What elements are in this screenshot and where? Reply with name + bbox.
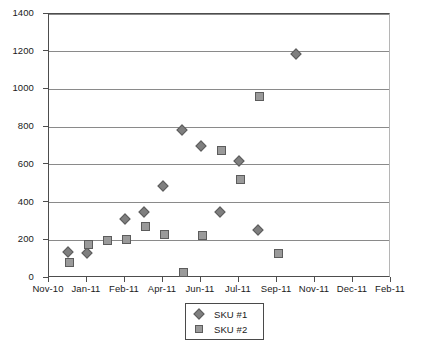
gridline <box>49 89 389 90</box>
y-tick-label: 200 <box>0 234 34 243</box>
y-tick-label: 600 <box>0 159 34 168</box>
data-point-series-2 <box>217 146 226 155</box>
gridline <box>49 14 389 15</box>
plot-area <box>48 13 390 277</box>
data-point-series-2 <box>236 175 245 184</box>
gridline <box>49 51 389 52</box>
data-point-series-2 <box>141 222 150 231</box>
y-tick-label: 1400 <box>0 8 34 17</box>
data-point-series-1 <box>158 180 169 191</box>
x-tick-mark <box>200 277 201 282</box>
x-tick-mark <box>124 277 125 282</box>
x-tick-mark <box>238 277 239 282</box>
x-tick-mark <box>314 277 315 282</box>
data-point-series-2 <box>198 231 207 240</box>
x-tick-mark <box>390 277 391 282</box>
y-tick-label: 1000 <box>0 83 34 92</box>
x-tick-mark <box>276 277 277 282</box>
x-tick-mark <box>86 277 87 282</box>
data-point-series-2 <box>160 230 169 239</box>
data-point-series-2 <box>179 268 188 277</box>
data-point-series-1 <box>291 48 302 59</box>
scatter-chart: 0200400600800100012001400 Nov-10Jan-11Fe… <box>0 0 428 350</box>
x-tick-mark <box>48 277 49 282</box>
chart-legend: SKU #1 SKU #2 <box>185 303 264 340</box>
data-point-series-2 <box>84 240 93 249</box>
data-point-series-1 <box>120 213 131 224</box>
x-tick-label: Feb-11 <box>360 284 420 294</box>
legend-item-sku-1: SKU #1 <box>193 307 247 321</box>
data-point-series-2 <box>103 236 112 245</box>
x-tick-mark <box>162 277 163 282</box>
data-point-series-2 <box>255 92 264 101</box>
data-point-series-2 <box>122 235 131 244</box>
diamond-marker-icon <box>193 308 205 320</box>
data-point-series-1 <box>215 207 226 218</box>
data-point-series-2 <box>65 258 74 267</box>
data-point-series-1 <box>253 225 264 236</box>
square-marker-icon <box>193 323 205 335</box>
y-tick-label: 0 <box>0 272 34 281</box>
y-tick-label: 400 <box>0 197 34 206</box>
y-tick-label: 1200 <box>0 46 34 55</box>
gridline <box>49 240 389 241</box>
gridline <box>49 202 389 203</box>
data-point-series-1 <box>196 141 207 152</box>
legend-item-sku-2: SKU #2 <box>193 322 247 336</box>
gridline <box>49 164 389 165</box>
gridline <box>49 127 389 128</box>
data-point-series-1 <box>82 247 93 258</box>
legend-label-sku-2: SKU #2 <box>214 324 247 335</box>
legend-label-sku-1: SKU #1 <box>214 309 247 320</box>
x-tick-mark <box>352 277 353 282</box>
data-point-series-2 <box>274 249 283 258</box>
data-point-series-1 <box>63 246 74 257</box>
y-tick-label: 800 <box>0 121 34 130</box>
data-point-series-1 <box>139 207 150 218</box>
